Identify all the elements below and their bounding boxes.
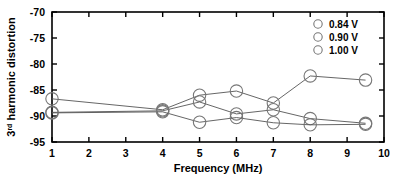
series-1-00-v xyxy=(46,106,372,131)
x-tick-label: 8 xyxy=(307,147,313,159)
y-axis-tick-labels: -70-75-80-85-90-95 xyxy=(30,6,45,148)
y-axis-title-rest: harmonic distortion xyxy=(5,17,17,124)
x-tick-label: 9 xyxy=(344,147,350,159)
series-0-84-v xyxy=(46,70,372,116)
x-tick-label: 2 xyxy=(86,147,92,159)
x-tick-label: 10 xyxy=(378,147,390,159)
legend-marker-1 xyxy=(314,20,322,28)
series-line xyxy=(52,112,366,125)
legend-label-1: 0.84 V xyxy=(329,19,358,30)
chart-legend: 0.84 V0.90 V1.00 V xyxy=(314,19,358,56)
chart-figure: -70-75-80-85-90-95 12345678910 3rd harmo… xyxy=(0,0,403,180)
x-axis-tick-labels: 12345678910 xyxy=(49,147,390,159)
y-tick-label: -70 xyxy=(30,6,45,18)
x-axis-title-text: Frequency (MHz) xyxy=(174,162,263,174)
x-tick-label: 1 xyxy=(49,147,55,159)
svg-text:3rd harmonic distortion: 3rd harmonic distortion xyxy=(5,17,17,137)
x-tick-label: 5 xyxy=(197,147,203,159)
legend-marker-2 xyxy=(314,33,322,41)
y-tick-label: -75 xyxy=(30,32,45,44)
legend-label-2: 0.90 V xyxy=(329,32,358,43)
y-axis-title-superscript: rd xyxy=(6,124,13,131)
harmonic-distortion-chart: -70-75-80-85-90-95 12345678910 3rd harmo… xyxy=(0,0,403,180)
y-tick-label: -95 xyxy=(30,136,45,148)
y-axis-title: 3rd harmonic distortion xyxy=(5,17,17,137)
y-tick-label: -80 xyxy=(30,58,45,70)
x-tick-label: 3 xyxy=(123,147,129,159)
x-tick-label: 6 xyxy=(234,147,240,159)
y-tick-label: -90 xyxy=(30,110,45,122)
y-tick-label: -85 xyxy=(30,84,45,96)
x-axis-title: Frequency (MHz) xyxy=(174,162,263,174)
x-tick-label: 4 xyxy=(160,147,166,159)
data-series-layer xyxy=(46,70,372,131)
legend-label-3: 1.00 V xyxy=(329,45,358,56)
x-tick-label: 7 xyxy=(270,147,276,159)
legend-marker-3 xyxy=(314,46,322,54)
